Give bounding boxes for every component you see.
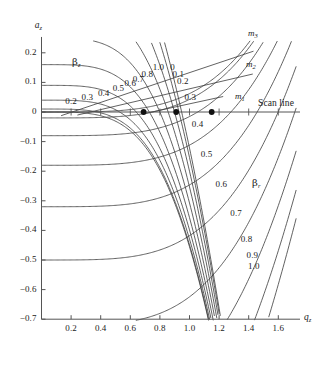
- beta-z-contour-0.2: [42, 100, 210, 319]
- beta-z-contour-0.0: [42, 112, 209, 320]
- mass-line-label-3: m3: [248, 29, 258, 38]
- beta-z-family-label: βz: [72, 57, 81, 67]
- x-tick-label-1.0: 1.0: [184, 324, 196, 333]
- mathieu-stability-figure: 0.20.10−0.1−0.2−0.3−0.4−0.5−0.6−0.70.20.…: [0, 0, 323, 366]
- beta-r-contour-0.1: [42, 42, 254, 118]
- y-tick-label-0.1: 0.1: [25, 77, 37, 86]
- operating-point-1: [141, 109, 147, 115]
- beta-z-label-1.0: 1.0: [153, 63, 165, 72]
- y-tick-label--0.3: −0.3: [20, 196, 37, 205]
- beta-r-label-0.9: 0.9: [247, 251, 259, 260]
- x-tick-label-1.4: 1.4: [243, 324, 255, 333]
- beta-r-label-0.3: 0.3: [184, 93, 196, 102]
- y-tick-label--0.6: −0.6: [20, 285, 37, 294]
- y-tick-label-0: 0: [32, 107, 37, 116]
- beta-z-label-0.8: 0.8: [142, 70, 154, 79]
- x-tick-label-0.4: 0.4: [95, 324, 107, 333]
- beta-z-contour-0.3: [42, 85, 211, 317]
- x-tick-label-1.6: 1.6: [273, 324, 285, 333]
- operating-point-3: [209, 109, 215, 115]
- beta-r-label-0.8: 0.8: [241, 235, 253, 244]
- beta-z-label-0.4: 0.4: [98, 89, 110, 98]
- y-tick-label--0.2: −0.2: [20, 166, 37, 175]
- beta-r-label-0.2: 0.2: [177, 77, 189, 86]
- beta-r-label-1.0: 1.0: [248, 262, 260, 271]
- operating-point-2: [173, 109, 179, 115]
- beta-r-label-0.4: 0.4: [192, 120, 204, 129]
- beta-r-label-0.6: 0.6: [216, 180, 228, 189]
- beta-r-label-0.7: 0.7: [230, 209, 242, 218]
- beta-r-contour-0.7: [227, 151, 296, 319]
- x-tick-label-0.8: 0.8: [154, 324, 166, 333]
- stability-diagram-plot: [0, 0, 323, 366]
- x-tick-label-0.6: 0.6: [125, 324, 137, 333]
- y-tick-label--0.4: −0.4: [20, 225, 37, 234]
- x-tick-label-0.2: 0.2: [65, 324, 77, 333]
- beta-z-contour-0.5: [94, 41, 215, 316]
- y-tick-label--0.7: −0.7: [20, 314, 37, 323]
- y-tick-label--0.1: −0.1: [20, 137, 37, 146]
- mass-line-label-2: m2: [246, 60, 256, 69]
- y-axis-label: az: [35, 21, 43, 31]
- beta-r-contour-0.5: [42, 67, 297, 260]
- x-axis-label: qz: [304, 313, 312, 323]
- y-tick-label-0.2: 0.2: [25, 48, 37, 57]
- mass-line-label-1: m1: [235, 92, 245, 101]
- beta-r-contour-0.8: [255, 190, 296, 319]
- beta-z-label-0.3: 0.3: [82, 93, 94, 102]
- beta-z-label-0.2: 0.2: [65, 97, 77, 106]
- beta-z-contour-0.1: [42, 109, 209, 319]
- beta-r-label-0.5: 0.5: [201, 150, 213, 159]
- beta-r-family-label: βr: [252, 178, 261, 188]
- beta-z-label-0.5: 0.5: [113, 84, 125, 93]
- y-tick-label--0.5: −0.5: [20, 255, 37, 264]
- x-tick-label-1.2: 1.2: [213, 324, 225, 333]
- scan-line-label: Scan line: [258, 99, 294, 109]
